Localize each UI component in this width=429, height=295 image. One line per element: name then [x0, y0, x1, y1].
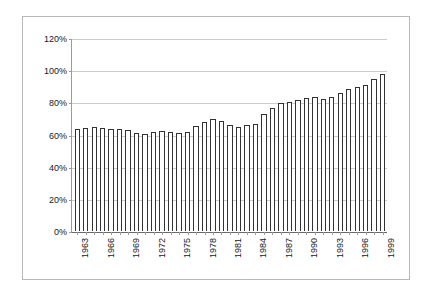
bar-slot: [81, 39, 89, 231]
x-axis-tick-mark: [162, 232, 163, 235]
bar-slot: [200, 39, 208, 231]
bar-slot: [115, 39, 123, 231]
bar-slot: [260, 39, 268, 231]
bar-slot: [107, 39, 115, 231]
x-axis-tick-slot: 1975: [175, 232, 183, 292]
x-axis-tick-slot: 1999: [378, 232, 386, 292]
bar: [83, 128, 88, 231]
bar-slot: [124, 39, 132, 231]
x-axis-tick-slot: 1972: [149, 232, 157, 292]
x-axis-tick-slot: 1973: [158, 232, 166, 292]
y-axis-tick-mark: [69, 136, 72, 137]
x-axis-tick-mark: [77, 232, 78, 235]
x-axis-tick-slot: 1980: [217, 232, 225, 292]
bar: [134, 133, 139, 231]
x-axis-tick-mark: [357, 232, 358, 235]
bar: [227, 125, 232, 231]
bar: [253, 124, 258, 231]
bar-slot: [353, 39, 361, 231]
bar: [108, 129, 113, 231]
bar: [355, 87, 360, 231]
x-axis-tick-slot: 1994: [336, 232, 344, 292]
x-axis-tick-slot: 1970: [132, 232, 140, 292]
bar-slot: [370, 39, 378, 231]
bar-slot: [192, 39, 200, 231]
bar-slot: [73, 39, 81, 231]
bar-slot: [243, 39, 251, 231]
x-axis-tick-mark: [111, 232, 112, 235]
x-axis-tick-mark: [213, 232, 214, 235]
x-axis-tick-mark: [315, 232, 316, 235]
bar: [75, 129, 80, 231]
bar: [278, 103, 283, 231]
bar: [329, 97, 334, 231]
x-axis-tick-mark: [221, 232, 222, 235]
bar-slot: [345, 39, 353, 231]
y-axis-tick-label: 100%: [44, 67, 67, 76]
x-axis-tick-mark: [196, 232, 197, 235]
x-axis-tick-slot: 1981: [226, 232, 234, 292]
x-axis-tick-slot: 1986: [268, 232, 276, 292]
y-axis-tick-label: 60%: [49, 131, 67, 140]
bar: [244, 125, 249, 231]
x-axis-tick-slot: 1993: [328, 232, 336, 292]
x-axis-tick-mark: [298, 232, 299, 235]
x-axis-tick-slot: 1965: [90, 232, 98, 292]
x-axis-tick-mark: [306, 232, 307, 235]
x-axis-tick-mark: [349, 232, 350, 235]
x-axis-tick-mark: [383, 232, 384, 235]
x-axis-tick-mark: [323, 232, 324, 235]
bar: [312, 97, 317, 231]
x-axis-tick-mark: [255, 232, 256, 235]
x-axis-tick-mark: [188, 232, 189, 235]
x-axis-tick-slot: 1969: [124, 232, 132, 292]
bar-slot: [294, 39, 302, 231]
x-axis-tick-slot: 1985: [260, 232, 268, 292]
x-axis-tick-slot: 1990: [302, 232, 310, 292]
bars-group: [73, 39, 387, 231]
x-axis-tick-slot: 1997: [361, 232, 369, 292]
x-axis-tick-slot: 1979: [209, 232, 217, 292]
bar: [125, 130, 130, 231]
bar-slot: [311, 39, 319, 231]
bar: [261, 114, 266, 231]
bar-slot: [132, 39, 140, 231]
x-axis-tick-mark: [86, 232, 87, 235]
bar: [117, 129, 122, 231]
bar: [193, 126, 198, 231]
x-axis-tick-mark: [154, 232, 155, 235]
bar-slot: [158, 39, 166, 231]
x-axis-tick-mark: [272, 232, 273, 235]
bar: [185, 132, 190, 231]
x-axis-tick-slot: 1964: [81, 232, 89, 292]
bar-slot: [302, 39, 310, 231]
x-axis-tick-slot: 1967: [107, 232, 115, 292]
plot-area: 0%20%40%60%80%100%120% 19631964196519661…: [71, 39, 387, 233]
bar: [321, 99, 326, 231]
x-axis-tick-mark: [230, 232, 231, 235]
bar-slot: [149, 39, 157, 231]
bar: [202, 122, 207, 231]
x-axis-tick-mark: [281, 232, 282, 235]
y-axis-tick-label: 20%: [49, 195, 67, 204]
x-axis-tick-slot: 1995: [345, 232, 353, 292]
x-axis-tick-mark: [179, 232, 180, 235]
bar-slot: [90, 39, 98, 231]
bar: [168, 132, 173, 231]
bar-slot: [319, 39, 327, 231]
x-axis-tick-slot: 1963: [73, 232, 81, 292]
x-axis-tick-mark: [340, 232, 341, 235]
x-axis-tick-slot: 1976: [183, 232, 191, 292]
bar-slot: [268, 39, 276, 231]
x-axis-tick-mark: [120, 232, 121, 235]
x-axis-tick-slot: 1991: [311, 232, 319, 292]
bar: [371, 79, 376, 231]
x-axis-tick-mark: [94, 232, 95, 235]
bar-slot: [226, 39, 234, 231]
bar: [346, 89, 351, 231]
y-axis-tick-mark: [69, 39, 72, 40]
x-axis-tick-mark: [332, 232, 333, 235]
x-axis-tick-mark: [103, 232, 104, 235]
y-axis-tick-label: 0%: [54, 228, 67, 237]
bar-slot: [166, 39, 174, 231]
